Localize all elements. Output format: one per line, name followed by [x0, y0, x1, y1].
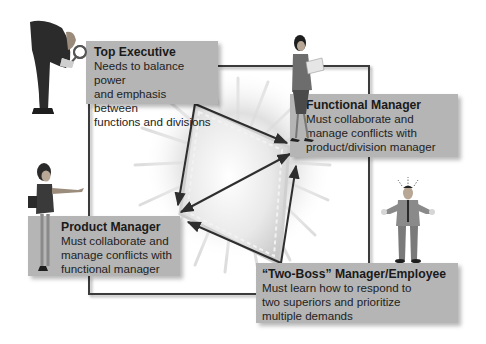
functional-manager-legs-icon — [290, 90, 314, 142]
product-manager-legs-icon — [38, 214, 48, 271]
executive-legs-icon — [32, 46, 86, 114]
matrix-roles-diagram: Top Executive Needs to balance power and… — [0, 0, 486, 344]
figures-overlay — [0, 0, 486, 344]
